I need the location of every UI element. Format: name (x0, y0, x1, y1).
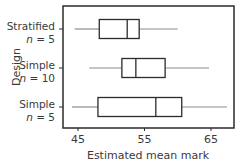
iqr-box (122, 59, 165, 78)
y-tick-label-sub: n = 5 (26, 33, 55, 45)
y-tick-label-sub: n = 5 (26, 111, 55, 123)
y-axis-title: Design (10, 48, 23, 86)
iqr-box (98, 98, 182, 117)
box-plot-chart: Stratifiedn = 5Simplen = 10Simplen = 5 4… (0, 0, 247, 163)
y-tick-label-name: Simple (19, 59, 55, 71)
box-0 (75, 20, 178, 39)
y-tick-label-name: Simple (19, 98, 55, 110)
x-tick-label: 65 (204, 133, 218, 146)
x-tick-label: 45 (71, 133, 85, 146)
box-2 (72, 98, 227, 117)
x-axis-title: Estimated mean mark (87, 149, 210, 162)
box-1 (89, 59, 209, 78)
y-tick-label-name: Stratified (7, 20, 55, 32)
iqr-box (99, 20, 139, 39)
y-tick-label-sub: n = 10 (20, 72, 56, 84)
x-tick-label: 55 (138, 133, 152, 146)
